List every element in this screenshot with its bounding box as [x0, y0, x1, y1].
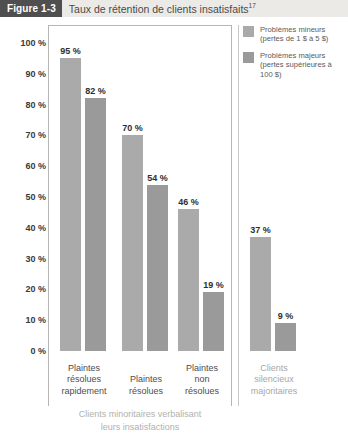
bar-wrapper: 95 %: [60, 46, 81, 351]
x-axis-category-line: majoritaires: [245, 386, 303, 398]
x-axis-category-line: silencieux: [245, 374, 303, 386]
footnote-marker: 17: [249, 2, 256, 9]
bar-wrapper: 19 %: [203, 280, 224, 351]
bar-group: 37 %9 %: [250, 225, 296, 351]
x-axis-category-line: non: [173, 374, 231, 386]
bar-group: 95 %82 %: [60, 46, 106, 351]
bottom-caption-line2: leurs insatisfactions: [36, 421, 244, 434]
bar-value-label: 46 %: [178, 197, 199, 207]
bar-wrapper: 37 %: [250, 225, 271, 351]
bar-value-label: 95 %: [60, 46, 81, 56]
x-axis-category-line: Plaintes: [117, 374, 175, 386]
bar-value-label: 19 %: [203, 280, 224, 290]
bar[interactable]: [122, 135, 143, 351]
figure-header: Figure 1-3 Taux de rétention de clients …: [0, 0, 348, 17]
bar-wrapper: 9 %: [275, 311, 296, 351]
bar[interactable]: [147, 185, 168, 351]
bar-wrapper: 54 %: [147, 173, 168, 351]
bottom-caption-line1: Clients minoritaires verbalisant: [36, 408, 244, 421]
bar[interactable]: [85, 98, 106, 351]
bar[interactable]: [60, 58, 81, 351]
x-axis-category-label: Plaintesrésoluesrapidement: [55, 363, 113, 398]
bar-value-label: 37 %: [250, 225, 271, 235]
figure-number-badge: Figure 1-3: [0, 0, 62, 17]
x-axis-category-line: Clients: [245, 363, 303, 375]
page-title: Taux de rétention de clients insatisfait…: [62, 2, 256, 15]
bar-value-label: 54 %: [147, 173, 168, 183]
bar[interactable]: [275, 323, 296, 351]
bar-wrapper: 82 %: [85, 86, 106, 351]
x-axis-category-label: Plaintesrésolues: [117, 374, 175, 397]
bar[interactable]: [203, 292, 224, 351]
bar-group: 70 %54 %: [122, 123, 168, 351]
bar[interactable]: [178, 209, 199, 351]
bar-wrapper: 46 %: [178, 197, 199, 351]
bar[interactable]: [250, 237, 271, 351]
x-axis-category-line: rapidement: [55, 386, 113, 398]
bar-value-label: 9 %: [278, 311, 294, 321]
bar-value-label: 82 %: [85, 86, 106, 96]
figure-title-text: Taux de rétention de clients insatisfait…: [69, 3, 249, 15]
x-axis-category-line: résolues: [117, 386, 175, 398]
bar-value-label: 70 %: [122, 123, 143, 133]
x-axis-category-line: Plaintes: [173, 363, 231, 375]
bar-wrapper: 70 %: [122, 123, 143, 351]
x-axis-category-line: résolues: [55, 374, 113, 386]
x-axis-category-line: Plaintes: [55, 363, 113, 375]
bottom-caption: Clients minoritaires verbalisant leurs i…: [36, 406, 244, 433]
x-axis-category-label: Clientssilencieuxmajoritaires: [245, 363, 303, 398]
x-axis-category-line: résolues: [173, 386, 231, 398]
bar-group: 46 %19 %: [178, 197, 224, 351]
x-axis-category-label: Plaintesnonrésolues: [173, 363, 231, 398]
bars-layer: 95 %82 %70 %54 %46 %19 %37 %9 %Plaintesr…: [0, 25, 348, 407]
